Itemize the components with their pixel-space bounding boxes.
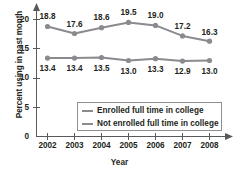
data-label-not-enrolled-2007: 12.9 [170,67,196,76]
data-label-not-enrolled-2005: 13.0 [116,67,142,76]
series-line-not-enrolled [45,55,212,64]
legend-line-swatch-icon [82,110,93,112]
y-axis-arrow-icon [33,3,40,11]
x-tick-label-2005: 2005 [114,141,144,150]
data-label-not-enrolled-2006: 13.3 [143,65,169,74]
data-label-not-enrolled-2003: 13.4 [62,64,88,73]
data-label-not-enrolled-2002: 13.4 [35,64,61,73]
y-tick-label-0: 0 [9,132,29,141]
x-tick-label-2008: 2008 [195,141,225,150]
legend-label-enrolled: Enrolled full time in college [97,106,203,115]
legend-item-enrolled: Enrolled full time in college [82,104,203,117]
x-tick-label-2006: 2006 [141,141,171,150]
data-label-enrolled-2007: 17.2 [170,22,196,31]
x-tick-label-2002: 2002 [33,141,63,150]
legend-label-not-enrolled: Not enrolled full time in college [97,119,218,128]
data-label-not-enrolled-2004: 13.5 [89,64,115,73]
x-tick-label-2003: 2003 [60,141,90,150]
x-axis-arrow-icon [225,133,233,140]
data-label-enrolled-2006: 19.0 [143,11,169,20]
line-chart: 20 15 10 5 0 2002 2003 2004 2005 2006 20… [0,0,239,174]
data-label-not-enrolled-2008: 13.0 [197,67,223,76]
data-label-enrolled-2008: 16.3 [197,28,223,37]
chart-legend: Enrolled full time in college Not enroll… [77,102,222,131]
legend-line-swatch-icon [82,123,93,125]
data-label-enrolled-2004: 18.6 [89,13,115,22]
x-axis-title: Year [0,158,239,167]
data-label-enrolled-2002: 18.8 [35,12,61,21]
data-label-enrolled-2005: 19.5 [116,8,142,17]
legend-item-not-enrolled: Not enrolled full time in college [82,117,218,130]
x-tick-label-2004: 2004 [87,141,117,150]
y-axis-title: Percent using in past month [15,3,24,127]
data-label-enrolled-2003: 17.6 [62,20,88,29]
x-tick-label-2007: 2007 [168,141,198,150]
